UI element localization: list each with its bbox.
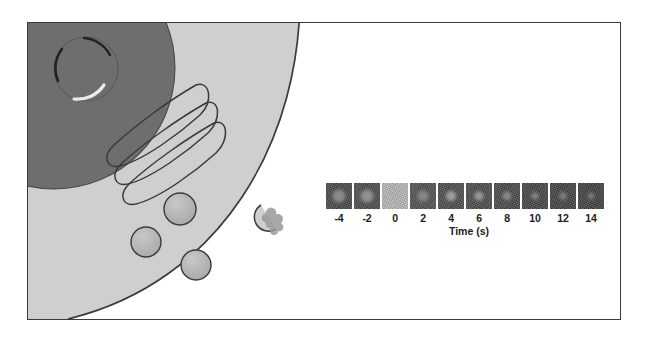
frap-frame [382, 183, 408, 209]
frap-timepoint-label: 6 [466, 212, 492, 224]
frap-fluorescent-spot [531, 192, 540, 201]
frap-timepoint-labels: -4-202468101214 [326, 212, 616, 224]
frap-timepoint-label: 8 [494, 212, 520, 224]
frap-timepoint-label: 12 [550, 212, 576, 224]
frap-frame [326, 183, 352, 209]
frap-frame [354, 183, 380, 209]
frap-timelapse-strip: -4-202468101214 Time (s) [326, 183, 616, 237]
frap-timepoint-label: 0 [382, 212, 408, 224]
frap-axis-title: Time (s) [326, 225, 612, 237]
fusing-vesicle [254, 205, 283, 235]
frap-timepoint-label: 10 [522, 212, 548, 224]
frap-timepoint-label: 4 [438, 212, 464, 224]
frap-frame [522, 183, 548, 209]
frap-fluorescent-spot [559, 192, 568, 201]
frap-frame-row [326, 183, 616, 209]
frap-fluorescent-spot [587, 192, 595, 200]
frap-timepoint-label: 2 [410, 212, 436, 224]
frap-frame [466, 183, 492, 209]
frap-timepoint-label: -4 [326, 212, 352, 224]
frap-fluorescent-spot [417, 190, 430, 203]
secretory-vesicle-3 [181, 250, 211, 280]
frap-frame [578, 183, 604, 209]
figure-panel-border: -4-202468101214 Time (s) [27, 22, 621, 320]
frap-frame [550, 183, 576, 209]
frap-frame [438, 183, 464, 209]
frap-timepoint-label: 14 [578, 212, 604, 224]
frap-frame [410, 183, 436, 209]
frap-fluorescent-spot [332, 189, 347, 204]
frap-fluorescent-spot [393, 194, 397, 198]
frap-fluorescent-spot [445, 190, 457, 202]
frap-fluorescent-spot [474, 191, 485, 202]
figure-root: -4-202468101214 Time (s) [0, 0, 650, 341]
frap-frame [494, 183, 520, 209]
frap-fluorescent-spot [360, 189, 375, 204]
cell-diagram [28, 23, 328, 319]
frap-timepoint-label: -2 [354, 212, 380, 224]
frap-fluorescent-spot [502, 191, 512, 201]
secretory-vesicle-1 [164, 193, 196, 225]
secretory-vesicle-2 [131, 227, 161, 257]
